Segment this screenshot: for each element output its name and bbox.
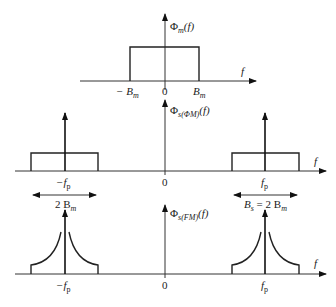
tick-label-neg-fp: −fp: [56, 176, 70, 191]
panel-pm-spectrum: Φs(ΦM)(f) f −fp 0 fp 2 Bm Bs = 2 Bm: [15, 100, 326, 213]
tick-label-neg-bm: − Bm: [116, 85, 139, 100]
x-axis-label: f: [314, 257, 319, 269]
tick-label-zero: 0: [162, 279, 168, 291]
tick-label-bm: Bm: [193, 85, 206, 100]
panel-fm-spectrum: Φs(FM)(f) f −fp 0 fp: [15, 205, 326, 294]
tick-label-fp: fp: [261, 176, 268, 191]
y-axis-label: Φs(FM)(f): [170, 207, 209, 222]
x-axis-label: f: [314, 155, 319, 167]
x-axis-label: f: [241, 65, 246, 77]
spectrum-diagram: Φm(f) f − Bm 0 Bm Φs(ΦM)(f) f −fp 0 fp 2…: [0, 0, 336, 307]
y-axis-label: Φs(ΦM)(f): [170, 104, 210, 119]
tick-label-zero: 0: [162, 176, 168, 188]
tick-label-neg-fp: −fp: [56, 279, 70, 294]
y-axis-label: Φm(f): [170, 20, 195, 35]
tick-label-fp: fp: [261, 279, 268, 294]
tick-label-zero: 0: [162, 85, 168, 97]
panel-message-spectrum: Φm(f) f − Bm 0 Bm: [80, 14, 256, 100]
